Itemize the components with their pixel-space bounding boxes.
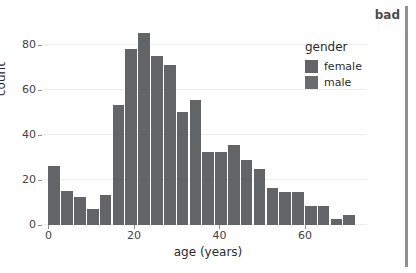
annotation-rule [405, 6, 408, 267]
legend: gender femalemale [305, 40, 375, 92]
bar [177, 112, 189, 225]
bar [305, 206, 317, 225]
bar [228, 145, 240, 225]
x-axis-tick-label: 40 [212, 229, 226, 242]
x-axis-tick-label: 0 [45, 229, 52, 242]
bar [331, 219, 343, 225]
bar [343, 215, 355, 225]
bar [241, 160, 253, 225]
legend-swatch [305, 60, 318, 73]
bar [113, 105, 125, 225]
bar [202, 152, 214, 225]
x-axis-tick-label: 60 [298, 229, 312, 242]
bar [279, 192, 291, 225]
y-axis-tick-mark [38, 135, 42, 136]
y-axis-tick-mark [38, 45, 42, 46]
bar [164, 65, 176, 225]
histogram-figure: 020406080 count 0204060 age (years) gend… [0, 0, 416, 273]
x-axis-tick-mark [219, 225, 220, 229]
bar [74, 197, 86, 225]
bar [138, 33, 150, 225]
y-axis-tick-mark [38, 90, 42, 91]
bar [318, 206, 330, 225]
y-axis-tick-label: 80 [0, 38, 36, 51]
bar [267, 188, 279, 225]
bar [254, 169, 266, 225]
y-axis-tick-mark [38, 225, 42, 226]
legend-item-label: male [324, 76, 351, 89]
x-axis-tick-mark [134, 225, 135, 229]
y-axis-tick-label: 20 [0, 173, 36, 186]
x-axis-label: age (years) [0, 245, 416, 259]
legend-item: male [305, 76, 375, 89]
bar [151, 56, 163, 225]
legend-item-label: female [324, 60, 362, 73]
bar [48, 166, 60, 225]
bar [87, 209, 99, 225]
bar [61, 191, 73, 225]
x-axis-tick-mark [48, 225, 49, 229]
x-axis-tick-mark [305, 225, 306, 229]
y-axis-tick-mark [38, 180, 42, 181]
y-axis-label: count [0, 62, 8, 96]
legend-title: gender [305, 40, 375, 54]
annotation-label-bad: bad [375, 8, 400, 22]
bar [100, 195, 112, 225]
bar [292, 192, 304, 225]
bar [190, 100, 202, 225]
legend-swatch [305, 76, 318, 89]
legend-item: female [305, 60, 375, 73]
legend-entries: femalemale [305, 60, 375, 89]
x-axis-tick-label: 20 [127, 229, 141, 242]
y-axis-tick-label: 0 [0, 218, 36, 231]
bar [125, 49, 137, 225]
bar [215, 152, 227, 225]
y-axis-tick-label: 40 [0, 128, 36, 141]
